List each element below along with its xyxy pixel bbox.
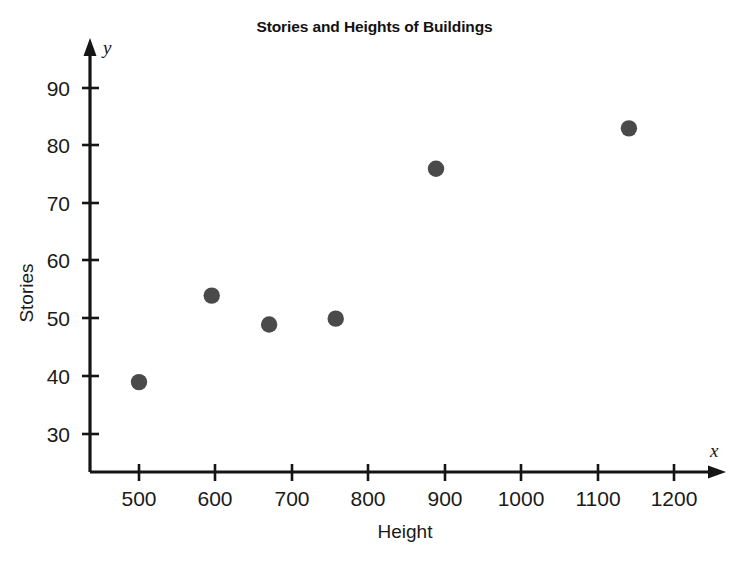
x-tick-label: 700	[274, 487, 309, 510]
data-point	[621, 120, 637, 136]
x-tick-label: 500	[121, 487, 156, 510]
y-axis-arrow-icon	[84, 38, 97, 56]
x-tick-label: 800	[350, 487, 385, 510]
data-point	[328, 310, 344, 326]
y-tick-label: 60	[47, 249, 70, 272]
y-axis-title: Stories	[16, 263, 37, 322]
x-tick-label: 600	[197, 487, 232, 510]
y-tick-label: 50	[47, 307, 70, 330]
y-tick-label: 40	[47, 365, 70, 388]
x-tick-label: 900	[427, 487, 462, 510]
x-tick-label: 1100	[575, 487, 620, 510]
plot-canvas: 90 80 70 60 50 40 30 500 600 700 800 900…	[0, 0, 749, 575]
y-tick-label: 80	[47, 134, 70, 157]
data-point	[131, 374, 147, 390]
y-tick-label: 30	[47, 423, 70, 446]
data-point	[204, 287, 220, 303]
data-point	[428, 161, 444, 177]
data-point	[261, 316, 277, 332]
scatter-plot-figure: Stories and Heights of Buildings	[0, 0, 749, 575]
y-tick-label: 70	[47, 192, 70, 215]
x-tick-label: 1000	[498, 487, 545, 510]
x-axis-tick-labels: 500 600 700 800 900 1000 1100 1200	[121, 487, 697, 510]
y-axis-tick-labels: 90 80 70 60 50 40 30	[47, 77, 70, 446]
x-axis-variable-label: x	[709, 440, 719, 461]
data-points-layer	[131, 120, 637, 390]
y-axis-variable-label: y	[101, 37, 112, 58]
x-axis-arrow-icon	[708, 466, 726, 479]
y-tick-label: 90	[47, 77, 70, 100]
x-tick-label: 1200	[651, 487, 698, 510]
x-axis-title: Height	[378, 521, 434, 542]
